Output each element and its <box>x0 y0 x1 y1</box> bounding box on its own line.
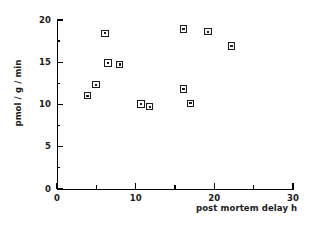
x-axis-tick-label: 0 <box>46 193 68 203</box>
x-axis-tick-label: 30 <box>282 193 304 203</box>
data-point-marker <box>137 100 144 107</box>
data-point-marker <box>101 30 108 37</box>
scatter-plot-figure: 051015200102030 post mortem delay h pmol… <box>0 0 315 226</box>
data-point-marker <box>104 59 111 66</box>
y-axis-title: pmol / g / min <box>13 53 23 133</box>
data-point-marker <box>187 100 194 107</box>
x-axis-tick-label: 20 <box>203 193 225 203</box>
data-point-marker <box>92 81 99 88</box>
y-axis-tick-label: 10 <box>29 99 51 109</box>
data-point-marker <box>180 25 187 32</box>
y-axis-tick-label: 15 <box>29 57 51 67</box>
data-point-marker <box>204 28 211 35</box>
data-point-marker <box>116 61 123 68</box>
y-axis-tick-label: 20 <box>29 15 51 25</box>
data-point-marker <box>146 103 153 110</box>
y-axis-tick-label: 5 <box>29 141 51 151</box>
x-axis-tick-label: 10 <box>125 193 147 203</box>
data-point-marker <box>84 92 91 99</box>
plot-data-area <box>57 20 293 189</box>
x-axis-title: post mortem delay h <box>196 203 297 213</box>
data-point-marker <box>228 42 235 49</box>
data-point-marker <box>180 85 187 92</box>
